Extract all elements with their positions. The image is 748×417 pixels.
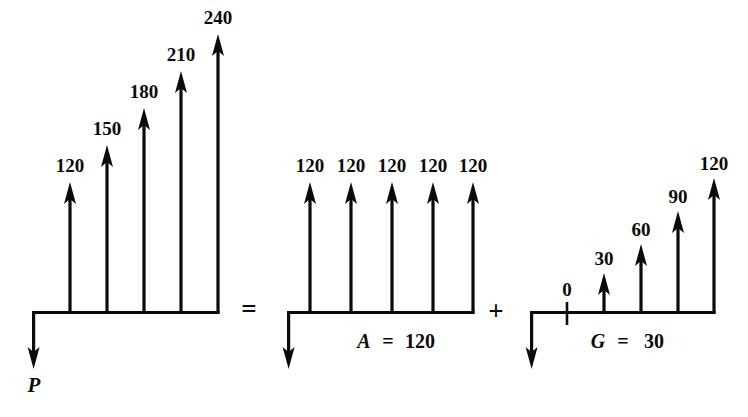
cash-flow-arrow-g-1 xyxy=(598,273,610,313)
gradient-series-symbol: G xyxy=(591,330,606,352)
gradient-series-equation: G=30 xyxy=(591,330,664,352)
panel-uniform-series-cash-flow: 120 120 120 120 120 A xyxy=(283,155,488,369)
present-worth-label-P: P xyxy=(27,373,41,397)
cash-flow-value-g-4: 120 xyxy=(700,153,729,174)
cash-flow-arrow-g-3 xyxy=(672,211,684,313)
cash-flow-value-p-2: 150 xyxy=(93,118,122,139)
gradient-series-value: 30 xyxy=(644,330,664,352)
cash-flow-value-a-2: 120 xyxy=(337,155,366,176)
cash-flow-value-g-3: 90 xyxy=(669,186,688,207)
cash-flow-value-p-3: 180 xyxy=(130,81,159,102)
uniform-series-value: 120 xyxy=(405,330,435,352)
uniform-series-equation: A=120 xyxy=(355,330,435,352)
cash-flow-value-a-4: 120 xyxy=(419,155,448,176)
gradient-series-equals: = xyxy=(617,330,628,352)
cash-flow-value-g-1: 30 xyxy=(595,248,614,269)
present-worth-arrow-right xyxy=(526,311,538,369)
cash-flow-value-g-2: 60 xyxy=(632,219,651,240)
panel-combined-cash-flow: P 120 150 180 21 xyxy=(27,7,233,397)
cash-flow-arrow-p-5 xyxy=(212,34,224,313)
present-worth-arrow-left xyxy=(28,311,40,369)
cash-flow-value-p-1: 120 xyxy=(56,155,85,176)
cash-flow-arrow-p-1 xyxy=(64,182,76,313)
cash-flow-arrow-a-3 xyxy=(386,182,398,313)
cash-flow-value-a-1: 120 xyxy=(296,155,325,176)
cash-flow-arrow-p-3 xyxy=(138,108,150,313)
cash-flow-arrow-a-5 xyxy=(467,182,479,313)
cash-flow-diagram-svg: P 120 150 180 21 xyxy=(0,0,748,417)
cash-flow-arrow-g-2 xyxy=(635,244,647,313)
cash-flow-value-a-5: 120 xyxy=(459,155,488,176)
cash-flow-arrow-p-2 xyxy=(101,145,113,313)
cash-flow-value-p-5: 240 xyxy=(204,7,233,28)
uniform-series-equals: = xyxy=(382,330,393,352)
cash-flow-arrow-g-4 xyxy=(708,178,720,313)
plus-operator: + xyxy=(488,296,503,326)
cash-flow-value-g-0: 0 xyxy=(562,279,572,300)
cash-flow-arrow-a-1 xyxy=(304,182,316,313)
cash-flow-value-p-4: 210 xyxy=(167,44,196,65)
cash-flow-arrow-p-4 xyxy=(175,71,187,313)
equals-operator: = xyxy=(241,294,256,324)
panel-gradient-series-cash-flow: 0 30 60 90 120 xyxy=(526,153,729,369)
cash-flow-arrow-a-2 xyxy=(345,182,357,313)
uniform-series-symbol: A xyxy=(355,330,370,352)
present-worth-arrow-middle xyxy=(283,311,295,369)
cash-flow-figure: P 120 150 180 21 xyxy=(0,0,748,417)
cash-flow-arrow-a-4 xyxy=(427,182,439,313)
cash-flow-value-a-3: 120 xyxy=(378,155,407,176)
